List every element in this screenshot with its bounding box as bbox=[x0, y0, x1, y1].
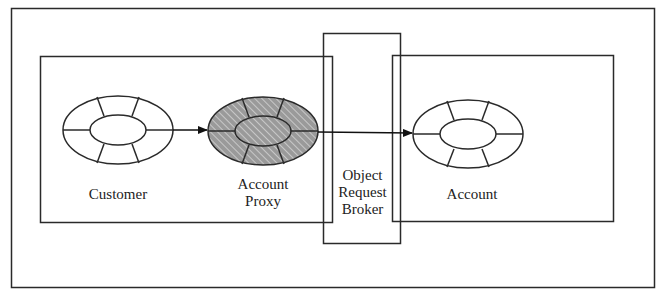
customer-object-icon bbox=[63, 96, 173, 164]
account-label-text: Account bbox=[447, 186, 498, 202]
customer-label-text: Customer bbox=[89, 186, 147, 202]
account-proxy-label-line1: Account bbox=[223, 176, 303, 193]
arrow-proxy-to-account bbox=[318, 132, 412, 133]
orb-label: Object Request Broker bbox=[324, 167, 401, 218]
orb-label-line2: Request bbox=[324, 184, 401, 201]
account-object-icon bbox=[413, 100, 523, 168]
account-label: Account bbox=[432, 186, 512, 203]
account-proxy-label-line2: Proxy bbox=[223, 193, 303, 210]
orb-label-line1: Object bbox=[324, 167, 401, 184]
account-proxy-label: Account Proxy bbox=[223, 176, 303, 210]
customer-label: Customer bbox=[78, 186, 158, 203]
orb-label-line3: Broker bbox=[324, 201, 401, 218]
account-proxy-object-icon bbox=[208, 97, 318, 165]
